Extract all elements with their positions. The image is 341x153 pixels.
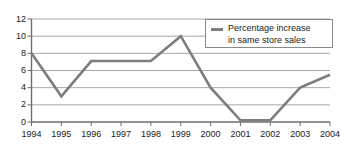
- x-axis-tick-label: 2003: [285, 130, 315, 139]
- y-axis-tick-label: 4: [4, 83, 26, 92]
- x-axis-tick-label: 2000: [196, 130, 226, 139]
- x-axis-tick-label: 1996: [76, 130, 106, 139]
- x-axis-tick-label: 1998: [136, 130, 166, 139]
- data-series-line: [32, 36, 331, 120]
- legend-entry: Percentage increase in same store sales: [211, 23, 332, 46]
- x-axis-tick-label: 2002: [255, 130, 285, 139]
- y-axis-tick-label: 12: [4, 15, 26, 24]
- x-axis-tick-label: 1994: [17, 130, 47, 139]
- y-axis-tick-label: 0: [4, 118, 26, 127]
- legend-label-line-1: Percentage increase: [228, 23, 311, 33]
- y-axis-tick-label: 2: [4, 100, 26, 109]
- y-axis-tick-label: 8: [4, 49, 26, 58]
- y-axis-tick-label: 10: [4, 32, 26, 41]
- x-axis-tick-label: 1997: [106, 130, 136, 139]
- x-axis-tick-label: 1995: [46, 130, 76, 139]
- legend-line-swatch: [211, 28, 223, 31]
- line-chart: 024681012 199419951996199719981999200020…: [0, 0, 341, 153]
- legend-label: Percentage increase in same store sales: [228, 23, 332, 46]
- chart-legend: Percentage increase in same store sales: [205, 19, 333, 48]
- x-axis-tick-label: 2004: [315, 130, 341, 139]
- y-axis-tick-label: 6: [4, 66, 26, 75]
- x-axis-tick-label: 1999: [166, 130, 196, 139]
- legend-label-line-2: in same store sales: [228, 35, 306, 45]
- x-axis-tick-label: 2001: [225, 130, 255, 139]
